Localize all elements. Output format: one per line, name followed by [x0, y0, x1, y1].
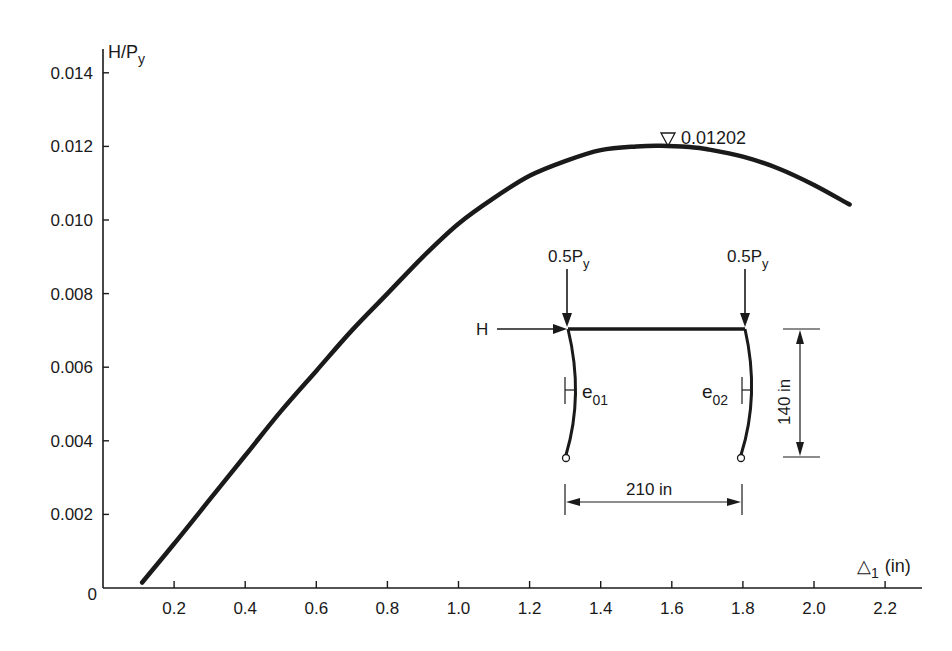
span-dim-arrow-left-icon	[566, 498, 580, 506]
portal-frame-diagram	[497, 269, 820, 515]
y-tick-label: 0.006	[50, 358, 93, 377]
y-tick-label: 0	[88, 585, 97, 604]
y-tick-label: 0.002	[50, 505, 93, 524]
right-load-label: 0.5Py	[727, 247, 769, 271]
height-dim-label: 140 in	[775, 379, 794, 425]
x-tick-label: 0.4	[233, 599, 257, 618]
x-tick-label: 1.2	[518, 599, 542, 618]
e01-label: e01	[582, 381, 608, 408]
data-curve	[142, 146, 850, 583]
left-column	[566, 329, 576, 455]
x-axis-label: △1(in)	[857, 556, 911, 581]
chart-figure: 00.0020.0040.0060.0080.0100.0120.014 0.2…	[0, 0, 952, 651]
y-tick-label: 0.012	[50, 137, 93, 156]
x-tick-label: 1.6	[660, 599, 684, 618]
x-tick-label: 1.8	[731, 599, 755, 618]
x-tick-label: 2.0	[802, 599, 826, 618]
x-tick-label: 2.2	[873, 599, 897, 618]
y-tick-label: 0.008	[50, 285, 93, 304]
height-dim-arrow-down-icon	[796, 442, 804, 456]
horizontal-load-arrowhead-icon	[553, 324, 567, 334]
y-tick-label: 0.014	[50, 64, 93, 83]
peak-value-label: 0.01202	[681, 128, 746, 148]
x-tick-label: 0.8	[376, 599, 400, 618]
height-dim-arrow-up-icon	[796, 330, 804, 344]
right-pin-support-icon	[738, 455, 745, 462]
horizontal-load-label: H	[476, 320, 488, 339]
e02-label: e02	[702, 381, 728, 408]
right-load-arrowhead-icon	[740, 313, 750, 327]
left-load-arrowhead-icon	[562, 313, 572, 327]
x-tick-label: 0.2	[162, 599, 186, 618]
y-ticks: 00.0020.0040.0060.0080.0100.0120.014	[50, 64, 109, 604]
x-tick-label: 0.6	[304, 599, 328, 618]
y-tick-label: 0.004	[50, 432, 93, 451]
x-tick-label: 1.0	[447, 599, 471, 618]
axes	[103, 49, 922, 588]
x-tick-label: 1.4	[589, 599, 613, 618]
span-dim-label: 210 in	[626, 480, 672, 499]
y-tick-label: 0.010	[50, 211, 93, 230]
x-ticks: 0.20.40.60.81.01.21.41.61.82.02.2	[162, 581, 897, 618]
y-axis-label: H/Py	[108, 42, 145, 67]
left-load-label: 0.5Py	[548, 247, 590, 271]
left-pin-support-icon	[563, 455, 570, 462]
span-dim-arrow-right-icon	[727, 498, 741, 506]
